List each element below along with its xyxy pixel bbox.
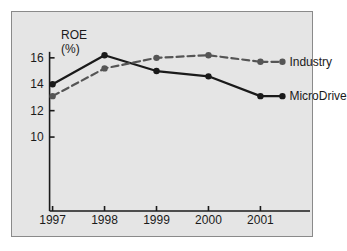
chart-plot-area [12,12,314,238]
legend-marker-microdrive [279,93,285,99]
data-point-industry-2000 [205,52,211,58]
series-group [49,52,285,99]
chart-figure: ROE (%) 16 14 12 10 1997 1998 1999 2000 … [11,11,313,237]
legend-marker-industry [279,59,285,65]
series-line-industry [53,55,261,96]
series-line-microdrive [53,55,261,96]
data-point-microdrive-2000 [205,73,211,79]
data-point-industry-1998 [101,65,107,71]
data-point-microdrive-1998 [101,52,107,58]
data-point-industry-1999 [153,55,159,61]
data-point-industry-1997 [49,93,55,99]
axes-group [50,52,310,211]
data-point-microdrive-1997 [49,81,55,87]
data-point-microdrive-1999 [153,68,159,74]
